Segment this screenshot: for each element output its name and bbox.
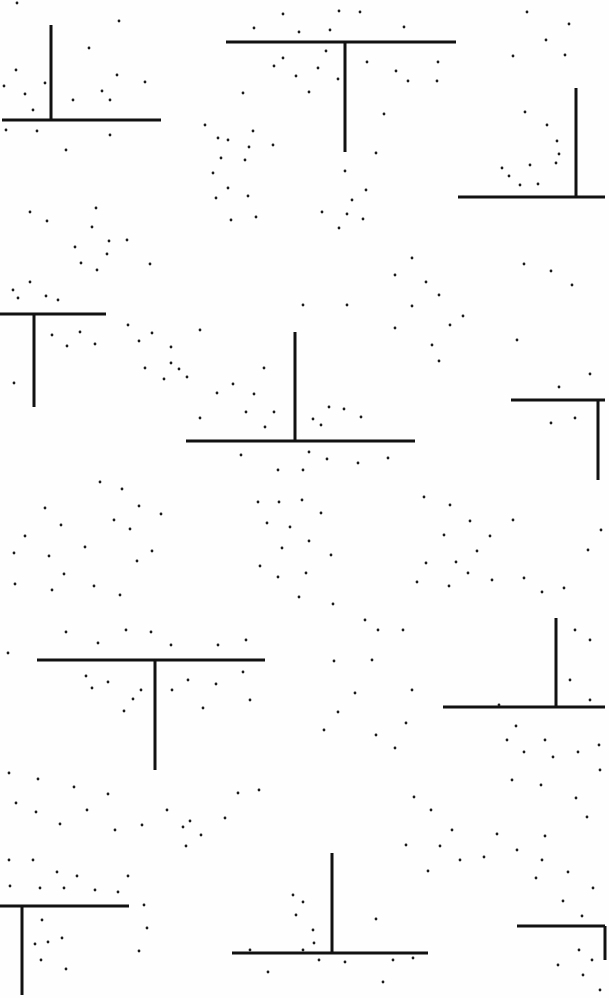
dot bbox=[338, 10, 341, 13]
t-shape bbox=[517, 926, 605, 960]
dot bbox=[129, 528, 132, 531]
t-shape bbox=[186, 332, 415, 441]
dot bbox=[599, 769, 602, 772]
dot bbox=[230, 219, 233, 222]
dot bbox=[224, 817, 227, 820]
dot bbox=[564, 54, 567, 57]
dot bbox=[323, 729, 326, 732]
dot bbox=[126, 239, 129, 242]
dot bbox=[423, 496, 426, 499]
dot bbox=[302, 949, 305, 952]
dot bbox=[109, 134, 112, 137]
dot bbox=[411, 305, 414, 308]
dot bbox=[13, 552, 16, 555]
dot bbox=[552, 756, 555, 759]
dot bbox=[93, 585, 96, 588]
dot bbox=[32, 109, 35, 112]
dot bbox=[586, 816, 589, 819]
dot bbox=[332, 603, 335, 606]
dot bbox=[56, 871, 59, 874]
dot bbox=[215, 197, 218, 200]
dot bbox=[249, 949, 252, 952]
dot bbox=[574, 417, 577, 420]
dot bbox=[85, 675, 88, 678]
dot bbox=[337, 78, 340, 81]
dot bbox=[187, 679, 190, 682]
dot bbox=[242, 671, 245, 674]
dot bbox=[317, 67, 320, 70]
dot bbox=[125, 629, 128, 632]
dot bbox=[217, 644, 220, 647]
dot bbox=[438, 294, 441, 297]
dot bbox=[244, 159, 247, 162]
dot bbox=[57, 299, 60, 302]
dot bbox=[282, 57, 285, 60]
dot bbox=[166, 809, 169, 812]
dot bbox=[598, 744, 601, 747]
dot bbox=[439, 845, 442, 848]
dot bbox=[555, 162, 558, 165]
dot bbox=[600, 529, 603, 532]
dot bbox=[545, 39, 548, 42]
dot bbox=[259, 565, 262, 568]
dot bbox=[449, 504, 452, 507]
dot bbox=[59, 823, 62, 826]
dot bbox=[45, 295, 48, 298]
dot bbox=[108, 240, 111, 243]
dot bbox=[483, 856, 486, 859]
dot bbox=[354, 692, 357, 695]
dot bbox=[215, 683, 218, 686]
dot bbox=[44, 82, 47, 85]
dot bbox=[338, 227, 341, 230]
dot bbox=[298, 596, 301, 599]
dot bbox=[245, 639, 248, 642]
dot bbox=[202, 707, 205, 710]
dot bbox=[16, 2, 19, 5]
dot bbox=[395, 70, 398, 73]
dot bbox=[431, 344, 434, 347]
dot bbox=[544, 739, 547, 742]
dot bbox=[7, 652, 10, 655]
dot bbox=[320, 424, 323, 427]
dot bbox=[325, 50, 328, 53]
dot bbox=[589, 699, 592, 702]
dot bbox=[86, 809, 89, 812]
dot bbox=[237, 792, 240, 795]
dot bbox=[550, 422, 553, 425]
dot bbox=[496, 833, 499, 836]
dot bbox=[557, 964, 560, 967]
dot bbox=[343, 408, 346, 411]
dot bbox=[357, 462, 360, 465]
dot bbox=[402, 629, 405, 632]
dot bbox=[14, 583, 17, 586]
dot bbox=[567, 871, 570, 874]
dot bbox=[581, 915, 584, 918]
dot bbox=[541, 859, 544, 862]
dot bbox=[178, 368, 181, 371]
dot bbox=[61, 937, 64, 940]
dot bbox=[232, 383, 235, 386]
dot bbox=[578, 949, 581, 952]
dot bbox=[171, 689, 174, 692]
dot bbox=[29, 211, 32, 214]
dot bbox=[302, 901, 305, 904]
dot bbox=[140, 689, 143, 692]
dot bbox=[489, 535, 492, 538]
dot bbox=[29, 281, 32, 284]
dot bbox=[34, 943, 37, 946]
dot bbox=[312, 929, 315, 932]
t-shape bbox=[443, 618, 605, 707]
dot bbox=[558, 386, 561, 389]
dot bbox=[326, 458, 329, 461]
dot bbox=[308, 91, 311, 94]
dot bbox=[563, 587, 566, 590]
dot bbox=[312, 418, 315, 421]
dot bbox=[425, 562, 428, 565]
dot bbox=[575, 797, 578, 800]
t-shape bbox=[458, 88, 605, 197]
dot bbox=[76, 875, 79, 878]
t-shape bbox=[0, 314, 106, 407]
dot bbox=[227, 139, 230, 142]
dot bbox=[60, 524, 63, 527]
dot bbox=[375, 918, 378, 921]
